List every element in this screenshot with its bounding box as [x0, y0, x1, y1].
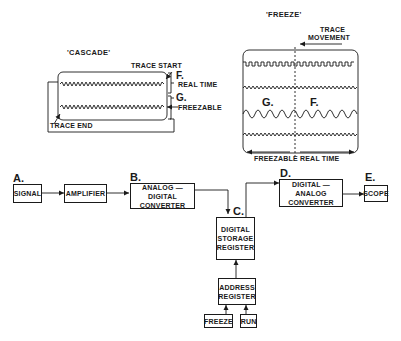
freeze-square-wave	[243, 62, 354, 66]
storage-block: DIGITAL STORAGE REGISTER	[216, 217, 255, 260]
cascade-screen	[58, 72, 167, 120]
cascade-real-time-label: REAL TIME	[178, 81, 217, 89]
trace-movement-line1: TRACE	[320, 26, 345, 34]
arrow-adc-storage	[195, 190, 228, 214]
cascade-trace-bottom	[60, 105, 164, 109]
freeze-f-letter: F.	[310, 96, 319, 108]
dac-line2: CONVERTER	[288, 198, 334, 207]
scope-label: SCOPE	[363, 189, 389, 198]
amplifier-label: AMPLIFIER	[66, 189, 106, 198]
freeze-zigzag-2	[243, 133, 357, 136]
storage-line2: STORAGE	[218, 234, 254, 243]
diagram-lines	[0, 0, 401, 341]
run-button: RUN	[240, 314, 257, 328]
label-e: E.	[365, 172, 375, 183]
adc-block: ANALOG — DIGITAL CONVERTER	[130, 183, 195, 209]
label-d: D.	[280, 168, 291, 179]
dac-line1: DIGITAL — ANALOG	[280, 180, 342, 198]
freeze-title: 'FREEZE'	[266, 10, 302, 19]
address-line2: REGISTER	[218, 292, 255, 301]
address-register-block: ADDRESS REGISTER	[218, 278, 256, 305]
scope-block: SCOPE	[364, 185, 388, 202]
freeze-screen	[243, 50, 358, 153]
freeze-zigzag-1	[243, 86, 357, 89]
adc-line1: ANALOG — DIGITAL	[131, 183, 194, 201]
adc-line2: CONVERTER	[140, 201, 186, 210]
cascade-trace-end-label: TRACE END	[50, 122, 93, 130]
cascade-title: 'CASCADE'	[67, 48, 110, 57]
cascade-f-letter: F.	[176, 70, 184, 81]
run-button-label: RUN	[241, 317, 257, 326]
arrow-storage-dac	[246, 183, 279, 217]
label-a: A.	[13, 173, 24, 184]
freeze-sine-wave	[243, 110, 357, 118]
cascade-trace-start-label: TRACE START	[131, 62, 182, 70]
cascade-trace-top	[60, 82, 164, 86]
label-c: C.	[233, 206, 244, 217]
storage-line3: REGISTER	[217, 243, 254, 252]
amplifier-block: AMPLIFIER	[64, 184, 107, 203]
dac-block: DIGITAL — ANALOG CONVERTER	[279, 179, 343, 207]
freeze-freezable-label: FREEZABLE	[254, 155, 298, 163]
signal-block: SIGNAL	[13, 184, 42, 203]
address-line1: ADDRESS	[219, 283, 255, 292]
freeze-button: FREEZE	[204, 314, 233, 328]
freeze-g-letter: G.	[262, 96, 274, 108]
cascade-freezable-label: FREEZABLE	[178, 104, 222, 112]
cascade-g-letter: G.	[176, 92, 187, 103]
freeze-button-label: FREEZE	[204, 317, 233, 326]
storage-line1: DIGITAL	[221, 225, 250, 234]
trace-movement-line2: MOVEMENT	[308, 34, 350, 42]
freeze-real-time-label: REAL TIME	[300, 155, 339, 163]
label-b: B.	[130, 172, 141, 183]
signal-label: SIGNAL	[14, 189, 42, 198]
